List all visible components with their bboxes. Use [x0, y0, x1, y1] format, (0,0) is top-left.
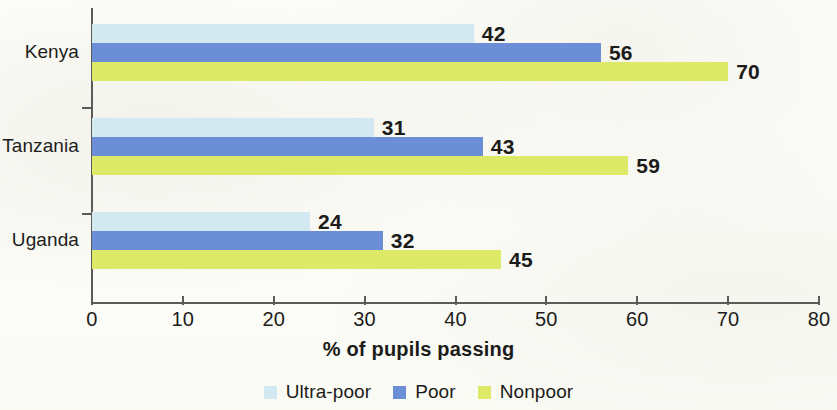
bar-nonpoor-tanzania: [92, 156, 628, 175]
category-axis-labels: KenyaTanzaniaUganda: [0, 0, 79, 310]
x-axis-tick-label: 0: [86, 308, 97, 331]
x-axis-title: % of pupils passing: [0, 338, 837, 361]
x-axis-tick-label: 20: [262, 308, 285, 331]
legend-item[interactable]: Poor: [393, 381, 456, 403]
bar-nonpoor-kenya: [92, 62, 728, 81]
bar-poor-uganda: [92, 231, 383, 250]
category-label: Uganda: [12, 229, 79, 251]
x-axis-tick-label: 50: [535, 308, 558, 331]
category-label: Kenya: [25, 41, 79, 63]
chart-figure: KenyaTanzaniaUganda 01020304050607080 % …: [0, 0, 837, 410]
bar-ultra-poor-kenya: [92, 24, 474, 43]
bar-value-label: 59: [636, 154, 660, 178]
bar-value-label: 45: [509, 248, 533, 272]
legend-label: Ultra-poor: [286, 381, 371, 403]
x-axis-tick-label: 10: [172, 308, 195, 331]
legend-swatch-icon: [478, 386, 491, 399]
legend-swatch-icon: [393, 386, 406, 399]
bar-ultra-poor-uganda: [92, 212, 310, 231]
bar-value-label: 70: [736, 60, 760, 84]
x-axis-tick-label: 30: [353, 308, 376, 331]
legend-label: Nonpoor: [500, 381, 574, 403]
chart-legend: Ultra-poorPoorNonpoor: [0, 381, 837, 403]
legend-item[interactable]: Nonpoor: [478, 381, 574, 403]
bar-poor-tanzania: [92, 137, 483, 156]
x-axis-tick-label: 60: [626, 308, 649, 331]
bar-ultra-poor-tanzania: [92, 118, 374, 137]
legend-item[interactable]: Ultra-poor: [264, 381, 371, 403]
legend-label: Poor: [415, 381, 456, 403]
legend-swatch-icon: [264, 386, 277, 399]
bar-nonpoor-uganda: [92, 250, 501, 269]
bar-poor-kenya: [92, 43, 601, 62]
x-axis-tick-label: 70: [717, 308, 740, 331]
x-axis-tick-label: 40: [444, 308, 467, 331]
category-label: Tanzania: [2, 135, 79, 157]
x-axis-tick-label: 80: [808, 308, 831, 331]
